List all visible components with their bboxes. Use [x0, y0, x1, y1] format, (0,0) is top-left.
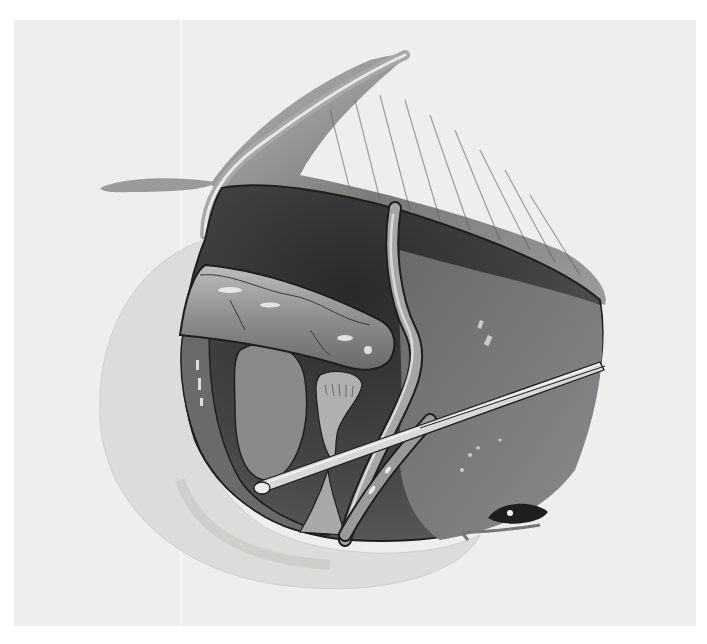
- tissue-tag: [100, 178, 215, 192]
- surgical-illustration: [0, 0, 707, 644]
- instrument-tip: [254, 482, 270, 494]
- illustration-canvas: [0, 0, 707, 644]
- eye-highlight: [507, 510, 513, 516]
